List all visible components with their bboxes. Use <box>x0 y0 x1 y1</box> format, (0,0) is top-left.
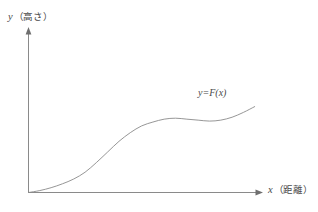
y-axis-label: y（高さ） <box>8 12 53 23</box>
graph-figure: y（高さ） x（距離） y=F(x) <box>0 0 318 212</box>
x-axis-arrowhead <box>256 190 264 196</box>
x-axis-unit-note: （距離） <box>274 184 313 195</box>
y-axis-unit-note: （高さ） <box>14 11 53 22</box>
x-axis-label: x（距離） <box>268 185 313 196</box>
curve-label-text: y=F(x) <box>198 87 226 98</box>
plot-canvas <box>0 0 318 212</box>
y-axis-arrowhead <box>26 27 32 35</box>
curve-label: y=F(x) <box>198 88 226 98</box>
function-curve <box>29 107 255 193</box>
